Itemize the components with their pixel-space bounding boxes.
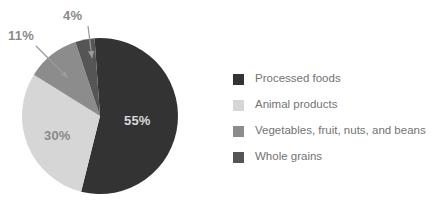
pie-graphic: 55% 30% 11% 4% — [0, 0, 220, 217]
legend-item-animal-products[interactable]: Animal products — [233, 92, 438, 118]
legend-item-label: Processed foods — [255, 73, 341, 85]
legend-item-label: Animal products — [255, 99, 337, 111]
slice-value-label-55: 55% — [124, 113, 151, 128]
pie-slices — [22, 38, 178, 194]
legend-item-whole-grains[interactable]: Whole grains — [233, 144, 438, 170]
slice-value-label-30: 30% — [44, 128, 71, 143]
pie-chart: 55% 30% 11% 4% Processed foods Animal pr… — [0, 0, 440, 217]
callout-value-label-11: 11% — [8, 28, 34, 43]
legend-item-label: Whole grains — [255, 151, 322, 163]
legend-swatch-icon — [233, 74, 244, 85]
legend-item-processed-foods[interactable]: Processed foods — [233, 66, 438, 92]
chart-legend: Processed foods Animal products Vegetabl… — [233, 66, 438, 170]
legend-item-label: Vegetables, fruit, nuts, and beans — [255, 125, 426, 137]
legend-swatch-icon — [233, 100, 244, 111]
legend-item-vegetables-fruit-nuts-beans[interactable]: Vegetables, fruit, nuts, and beans — [233, 118, 438, 144]
legend-swatch-icon — [233, 126, 244, 137]
legend-swatch-icon — [233, 152, 244, 163]
callout-labels: 11% 4% — [8, 8, 82, 43]
callout-value-label-4: 4% — [63, 8, 82, 23]
